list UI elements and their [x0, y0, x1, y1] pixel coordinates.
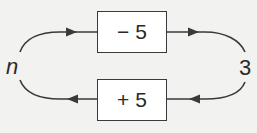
arrow-plus5-to-n [20, 80, 97, 99]
operation-box-minus5: − 5 [97, 11, 167, 53]
input-label-n: n [6, 54, 18, 80]
arrow-3-to-plus5 [167, 82, 245, 99]
arrow-minus5-to-3 [167, 32, 245, 52]
operation-label: + 5 [117, 88, 147, 112]
arrowhead-right-icon [66, 28, 77, 37]
arrowhead-left-icon [189, 95, 200, 104]
arrowhead-right-icon [188, 28, 199, 37]
arrow-n-to-minus5 [20, 32, 97, 52]
output-label-3: 3 [239, 55, 251, 81]
operation-box-plus5: + 5 [97, 79, 167, 121]
operation-label: − 5 [117, 20, 147, 44]
arrowhead-left-icon [67, 95, 78, 104]
